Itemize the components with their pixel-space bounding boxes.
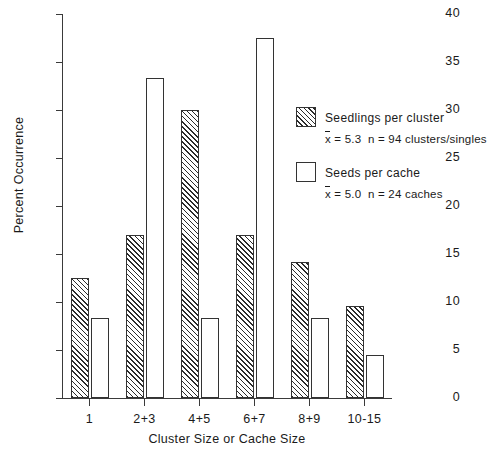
bar <box>311 318 329 398</box>
chart-legend: Seedlings per cluster x = 5.3 n = 94 clu… <box>296 106 487 216</box>
bar <box>181 110 199 398</box>
y-tick-label: 5 <box>412 342 460 356</box>
y-tick <box>56 206 63 207</box>
bar <box>146 78 164 398</box>
bar <box>256 38 274 398</box>
legend-item-title: Seeds per cache <box>325 166 420 180</box>
y-tick <box>56 398 63 399</box>
bar <box>291 262 309 398</box>
bar <box>236 235 254 398</box>
bar <box>126 235 144 398</box>
x-tick <box>364 399 365 406</box>
legend-swatch-hatched-icon <box>296 107 316 127</box>
y-tick <box>56 62 63 63</box>
y-tick <box>56 14 63 15</box>
x-tick <box>199 399 200 406</box>
y-tick-label: 15 <box>412 246 460 260</box>
bar <box>201 318 219 398</box>
x-tick <box>254 399 255 406</box>
legend-item-stats: x = 5.3 n = 94 clusters/singles <box>325 133 487 145</box>
legend-n-value: n = 24 caches <box>368 188 443 200</box>
x-tick <box>89 399 90 406</box>
y-tick <box>56 254 63 255</box>
bar <box>91 318 109 398</box>
x-tick-label: 10-15 <box>330 412 400 426</box>
y-tick <box>56 110 63 111</box>
y-tick-label: 35 <box>412 54 460 68</box>
bar <box>366 355 384 398</box>
y-tick <box>56 158 63 159</box>
y-tick-label: 40 <box>412 6 460 20</box>
x-axis-line <box>62 398 392 399</box>
bar <box>71 278 89 398</box>
legend-item: Seeds per cache x = 5.0 n = 24 caches <box>296 161 487 203</box>
legend-item-title: Seedlings per cluster <box>325 111 444 125</box>
legend-item-stats: x = 5.0 n = 24 caches <box>325 188 443 200</box>
y-tick-label: 0 <box>412 390 460 404</box>
y-axis-title: Percent Occurrence <box>12 80 26 270</box>
x-axis-title: Cluster Size or Cache Size <box>62 432 392 446</box>
legend-mean-value: = 5.3 <box>334 133 361 145</box>
bar <box>346 306 364 398</box>
y-tick-label: 10 <box>412 294 460 308</box>
legend-mean-value: = 5.0 <box>334 188 361 200</box>
y-tick <box>56 350 63 351</box>
x-tick <box>144 399 145 406</box>
legend-swatch-open-icon <box>296 162 316 182</box>
x-tick <box>309 399 310 406</box>
legend-n-value: n = 94 clusters/singles <box>368 133 487 145</box>
y-tick <box>56 302 63 303</box>
legend-item: Seedlings per cluster x = 5.3 n = 94 clu… <box>296 106 487 148</box>
